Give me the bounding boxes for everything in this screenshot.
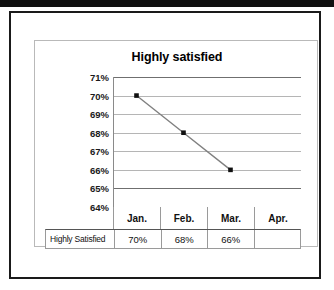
y-tick-label: 69% [67,109,109,120]
y-tick-label: 64% [67,202,109,213]
series-highly-satisfied [113,77,301,207]
data-table-cell-jan: 70% [114,230,161,248]
y-tick-label: 66% [67,164,109,175]
chart-data-table: Highly Satisfied 70% 68% 66% [45,229,301,249]
page-edge-artifact [0,0,334,7]
month-label-jan: Jan. [113,207,160,229]
plot-area [113,77,301,207]
y-tick-label: 70% [67,90,109,101]
data-point-marker [134,93,139,98]
month-label-mar: Mar. [207,207,254,229]
y-axis-tick-labels: 71% 70% 69% 68% 67% 66% 65% 64% [67,77,109,207]
document-frame: Highly satisfied 71% 70% 69% 68% 67% 66%… [9,11,321,279]
chart-object[interactable]: Highly satisfied 71% 70% 69% 68% 67% 66%… [34,40,318,247]
data-table-cell-apr [254,230,301,248]
data-point-marker [228,168,233,173]
month-label-apr: Apr. [254,207,301,229]
data-table-row-label: Highly Satisfied [46,230,114,248]
x-axis-month-band: Jan. Feb. Mar. Apr. [113,207,301,229]
data-point-marker [181,130,186,135]
month-label-feb: Feb. [160,207,207,229]
plot-wrapper: 71% 70% 69% 68% 67% 66% 65% 64% [35,41,319,248]
data-table-cell-mar: 66% [207,230,254,248]
y-tick-label: 65% [67,183,109,194]
scanned-page: Highly satisfied 71% 70% 69% 68% 67% 66%… [0,0,334,290]
y-tick-label: 68% [67,127,109,138]
y-tick-label: 67% [67,146,109,157]
y-tick-label: 71% [67,72,109,83]
data-table-cell-feb: 68% [161,230,208,248]
